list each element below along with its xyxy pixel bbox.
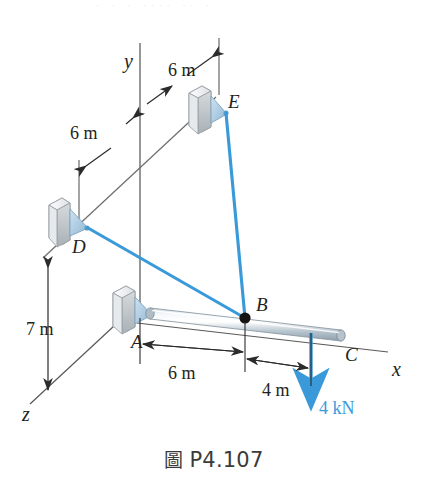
point-label-B: B (256, 294, 268, 315)
dim-label-4m-bc: 4 m (262, 380, 290, 400)
bracket-E (189, 86, 229, 134)
joint-B-dot (239, 312, 250, 323)
point-label-D: D (71, 236, 86, 257)
cable-BE (226, 113, 245, 318)
point-label-C: C (345, 344, 358, 365)
cables (88, 113, 251, 324)
axis-label-x: x (391, 358, 401, 380)
statics-diagram: y x z A B C D E 6 m 6 m 7 m 6 m 4 m 4 kN (0, 0, 427, 435)
point-label-E: E (227, 91, 240, 112)
dim-label-6m-upper: 6 m (168, 60, 196, 80)
dim-label-7m: 7 m (26, 319, 54, 339)
dim-label-6m-left: 6 m (70, 123, 98, 143)
bracket-A (113, 286, 152, 334)
figure-root: · · · ···· ·· · (0, 0, 427, 488)
axis-label-z: z (21, 403, 30, 425)
axis-label-y: y (122, 50, 133, 73)
caption-number: P4.107 (190, 450, 264, 471)
point-label-A: A (129, 331, 143, 352)
cable-BD (88, 228, 245, 318)
figure-caption: 圖 P4.107 (0, 432, 427, 488)
load-label-4kN: 4 kN (319, 398, 355, 418)
dim-label-6m-ab: 6 m (168, 363, 196, 383)
caption-cjk-marker: 圖 (164, 451, 183, 470)
